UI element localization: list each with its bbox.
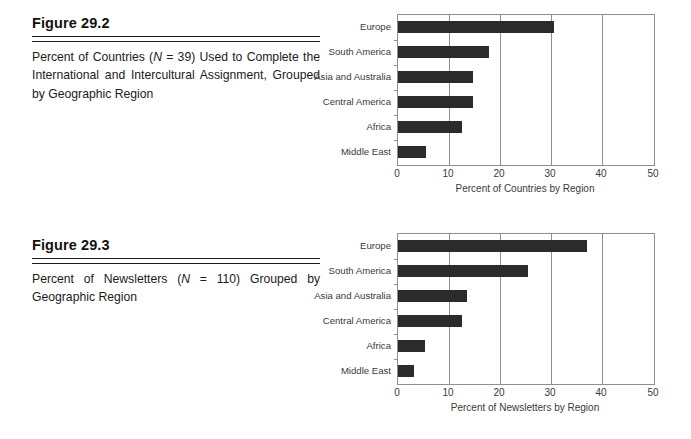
bar-row: Middle East <box>398 140 654 165</box>
category-label: Europe <box>360 18 391 36</box>
category-label: Central America <box>323 93 391 111</box>
category-label: Middle East <box>341 143 391 161</box>
x-tick-label: 0 <box>394 387 400 398</box>
bar-europe <box>398 240 587 252</box>
category-label: Middle East <box>341 362 391 380</box>
figure-block-29-2: Figure 29.2 Percent of Countries (N = 39… <box>0 0 691 219</box>
bar-central-america <box>398 96 473 108</box>
bar-south-america <box>398 265 528 277</box>
category-label: Europe <box>360 237 391 255</box>
x-tick-label: 10 <box>442 387 453 398</box>
bar-row: Central America <box>398 90 654 115</box>
bar-middle-east <box>398 146 426 158</box>
caption-part-pre: Percent of Countries ( <box>32 50 153 64</box>
caption-sample-size-symbol: N <box>181 272 190 286</box>
x-tick-label: 30 <box>544 387 555 398</box>
figure-caption-column: Figure 29.2 Percent of Countries (N = 39… <box>32 16 320 104</box>
category-label: Central America <box>323 312 391 330</box>
bar-row: Asia and Australia <box>398 284 654 309</box>
x-tick-label: 50 <box>647 387 658 398</box>
x-tick-label: 10 <box>442 168 453 179</box>
bar-row: Africa <box>398 334 654 359</box>
category-label: Africa <box>366 337 391 355</box>
bar-asia-and-australia <box>398 290 467 302</box>
figure-number: Figure 29.2 <box>32 16 320 32</box>
bar-africa <box>398 121 462 133</box>
category-label: Africa <box>366 118 391 136</box>
bar-row: Europe <box>398 15 654 40</box>
figure-caption-text: Percent of Newsletters (N = 110) Grouped… <box>32 270 320 307</box>
chart-plot-area: Europe South America Asia and Australia … <box>397 14 655 166</box>
figure-caption-column: Figure 29.3 Percent of Newsletters (N = … <box>32 238 320 307</box>
x-tick-label: 20 <box>493 387 504 398</box>
bar-asia-and-australia <box>398 71 473 83</box>
x-tick-label: 20 <box>493 168 504 179</box>
bar-middle-east <box>398 365 414 377</box>
bar-central-america <box>398 315 462 327</box>
category-label: Asia and Australia <box>314 287 391 305</box>
figure-number: Figure 29.3 <box>32 238 320 254</box>
bar-south-america <box>398 46 489 58</box>
category-label: South America <box>329 262 391 280</box>
bar-row: Africa <box>398 115 654 140</box>
bar-chart-newsletters: Europe South America Asia and Australia … <box>330 233 675 413</box>
x-tick-label: 40 <box>595 387 606 398</box>
figure-block-29-3: Figure 29.3 Percent of Newsletters (N = … <box>0 219 691 439</box>
x-axis-tick-labels: 0 10 20 30 40 50 <box>397 385 653 401</box>
x-axis-tick-labels: 0 10 20 30 40 50 <box>397 166 653 182</box>
bar-africa <box>398 340 425 352</box>
x-tick-label: 50 <box>647 168 658 179</box>
bar-row: Middle East <box>398 359 654 384</box>
x-tick-label: 40 <box>595 168 606 179</box>
bar-row: South America <box>398 259 654 284</box>
bar-row: Europe <box>398 234 654 259</box>
bar-row: Asia and Australia <box>398 65 654 90</box>
caption-double-rule <box>32 258 320 264</box>
x-tick-label: 30 <box>544 168 555 179</box>
x-tick-label: 0 <box>394 168 400 179</box>
x-axis-title: Percent of Countries by Region <box>397 182 653 194</box>
bar-row: Central America <box>398 309 654 334</box>
bar-row: South America <box>398 40 654 65</box>
caption-double-rule <box>32 36 320 42</box>
figure-caption-text: Percent of Countries (N = 39) Used to Co… <box>32 48 320 104</box>
category-label: Asia and Australia <box>314 68 391 86</box>
bar-chart-countries: Europe South America Asia and Australia … <box>330 14 675 194</box>
chart-plot-area: Europe South America Asia and Australia … <box>397 233 655 385</box>
caption-part-pre: Percent of Newsletters ( <box>32 272 181 286</box>
caption-sample-size-symbol: N <box>153 50 162 64</box>
x-axis-title: Percent of Newsletters by Region <box>397 401 653 413</box>
category-label: South America <box>329 43 391 61</box>
bar-europe <box>398 21 554 33</box>
